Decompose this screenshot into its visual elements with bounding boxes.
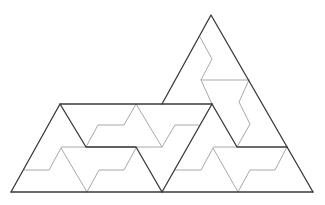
outline-edges xyxy=(11,15,313,192)
dissection-line xyxy=(24,148,87,192)
dissection-line xyxy=(201,80,212,104)
dissection-line xyxy=(238,147,287,192)
outline-edge xyxy=(60,104,162,192)
dissection-line xyxy=(200,37,249,80)
dissection-diagram xyxy=(0,0,325,205)
outline-edge xyxy=(11,104,212,192)
dissection-line xyxy=(86,104,162,147)
outline-edge xyxy=(162,104,212,192)
dissection-lines xyxy=(24,37,287,192)
dissection-line xyxy=(175,148,238,192)
dissection-line xyxy=(237,80,250,147)
dissection-line xyxy=(87,148,136,192)
